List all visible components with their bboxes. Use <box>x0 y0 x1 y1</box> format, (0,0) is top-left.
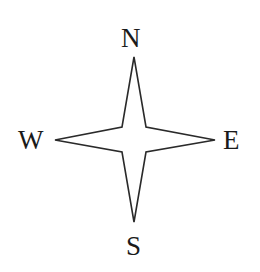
south-label: S <box>126 233 141 260</box>
north-label: N <box>121 25 141 52</box>
west-label: W <box>18 127 43 154</box>
compass-star-shape <box>55 57 215 222</box>
compass-rose: N W E S <box>0 0 260 272</box>
east-label: E <box>223 127 240 154</box>
